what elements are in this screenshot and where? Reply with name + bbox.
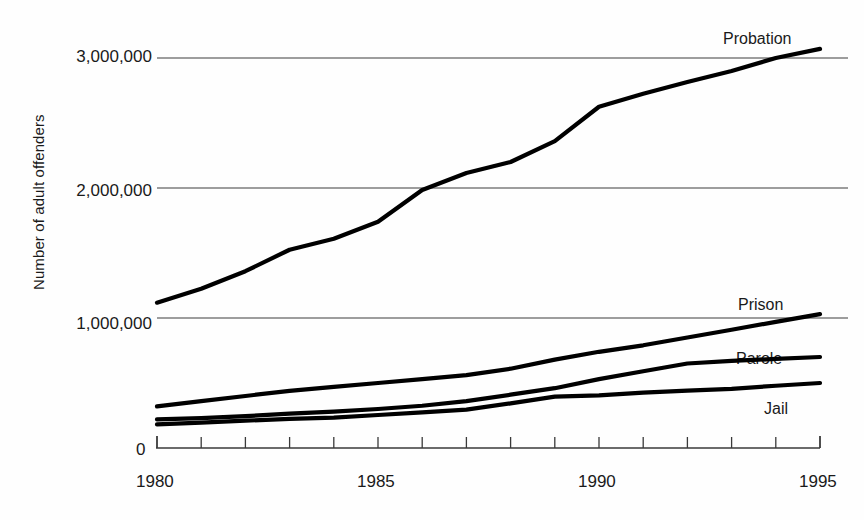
chart-plot-area [0,0,864,520]
series-line-jail [157,383,820,424]
axis-group [156,436,820,448]
chart-container: Number of adult offenders 0 3,000,000 2,… [0,0,864,520]
series-line-probation [157,49,820,303]
series-lines-group [157,49,820,424]
gridlines-group [157,58,848,318]
